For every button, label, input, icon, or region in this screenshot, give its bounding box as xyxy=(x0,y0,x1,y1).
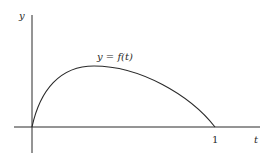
x-tick-1: 1 xyxy=(212,134,218,145)
function-graph: y y = f(t) 1 t xyxy=(0,0,272,160)
y-axis-label: y xyxy=(18,10,25,21)
curve-f xyxy=(32,66,215,127)
x-axis-label: t xyxy=(254,134,259,145)
curve-label: y = f(t) xyxy=(96,51,133,62)
